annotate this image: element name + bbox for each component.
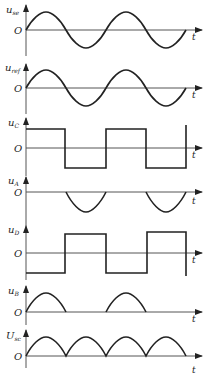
- panel-uref: uref O t: [5, 62, 202, 114]
- waveform-Usc: [26, 337, 186, 356]
- origin-label: O: [14, 307, 22, 318]
- waveform-uC: [26, 125, 186, 168]
- panel-Usc: Usc O t: [6, 330, 202, 375]
- waveform-uB: [26, 293, 146, 312]
- t-label: t: [192, 196, 196, 206]
- panel-uC: uC O t: [8, 117, 202, 176]
- waveform-diagram: use O t uref O t uC O t uA O t uD O t: [0, 0, 209, 379]
- t-label: t: [192, 314, 196, 324]
- panel-uA: uA O t: [8, 175, 202, 226]
- ylabel-uB: uB: [8, 285, 19, 297]
- waveform-uD: [26, 232, 186, 276]
- ylabel-uC: uC: [8, 117, 19, 129]
- t-label: t: [192, 32, 196, 42]
- origin-label: O: [14, 248, 22, 259]
- ylabel-use: use: [6, 4, 20, 16]
- t-label: t: [192, 150, 196, 160]
- ylabel-uD: uD: [8, 224, 19, 236]
- origin-label: O: [14, 25, 22, 36]
- panel-uD: uD O t: [8, 224, 202, 280]
- origin-label: O: [14, 143, 22, 154]
- origin-label: O: [14, 351, 22, 362]
- ylabel-uA: uA: [8, 175, 19, 187]
- t-label: t: [192, 90, 196, 100]
- t-label: t: [192, 365, 196, 375]
- t-label: t: [192, 255, 196, 265]
- panel-uB: uB O t: [8, 285, 202, 325]
- panel-use: use O t: [6, 4, 202, 56]
- ylabel-Usc: Usc: [6, 330, 22, 342]
- ylabel-uref: uref: [5, 62, 22, 75]
- waveform-uA: [66, 192, 186, 212]
- origin-label: O: [14, 187, 22, 198]
- origin-label: O: [14, 83, 22, 94]
